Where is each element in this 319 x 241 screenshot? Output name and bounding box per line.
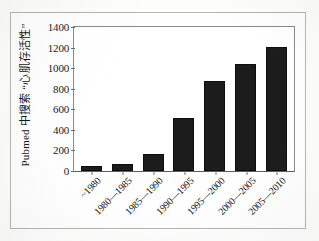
bar — [266, 47, 287, 171]
y-axis-tick-label: 1000 — [48, 62, 74, 74]
bar — [173, 118, 194, 171]
bar-series — [74, 27, 294, 171]
y-axis-tick-label: 600 — [53, 103, 74, 115]
y-axis-tick-label: 800 — [53, 83, 74, 95]
x-axis-labels: ~19801980—19851985—19901990—19951995—200… — [73, 175, 295, 227]
x-axis-tick-label: ~1980 — [78, 175, 103, 200]
y-axis-tick-label: 400 — [53, 124, 74, 136]
scanned-page-background: Pubmed 中搜索 “心肌存活性” 020040060080010001200… — [0, 0, 319, 241]
y-axis-title: Pubmed 中搜索 “心肌存活性” — [16, 24, 32, 167]
y-axis-title-container: Pubmed 中搜索 “心肌存活性” — [15, 19, 33, 171]
y-axis-tick-label: 1200 — [48, 42, 74, 54]
bar — [143, 154, 164, 171]
bar — [204, 81, 225, 172]
bar — [235, 64, 256, 171]
bar — [81, 166, 102, 171]
plot-area: 0200400600800100012001400 — [73, 26, 295, 172]
y-axis-tick-label: 200 — [53, 144, 74, 156]
figure-frame: Pubmed 中搜索 “心肌存活性” 020040060080010001200… — [10, 12, 306, 229]
y-axis-tick-label: 1400 — [48, 21, 74, 33]
bar — [112, 164, 133, 171]
